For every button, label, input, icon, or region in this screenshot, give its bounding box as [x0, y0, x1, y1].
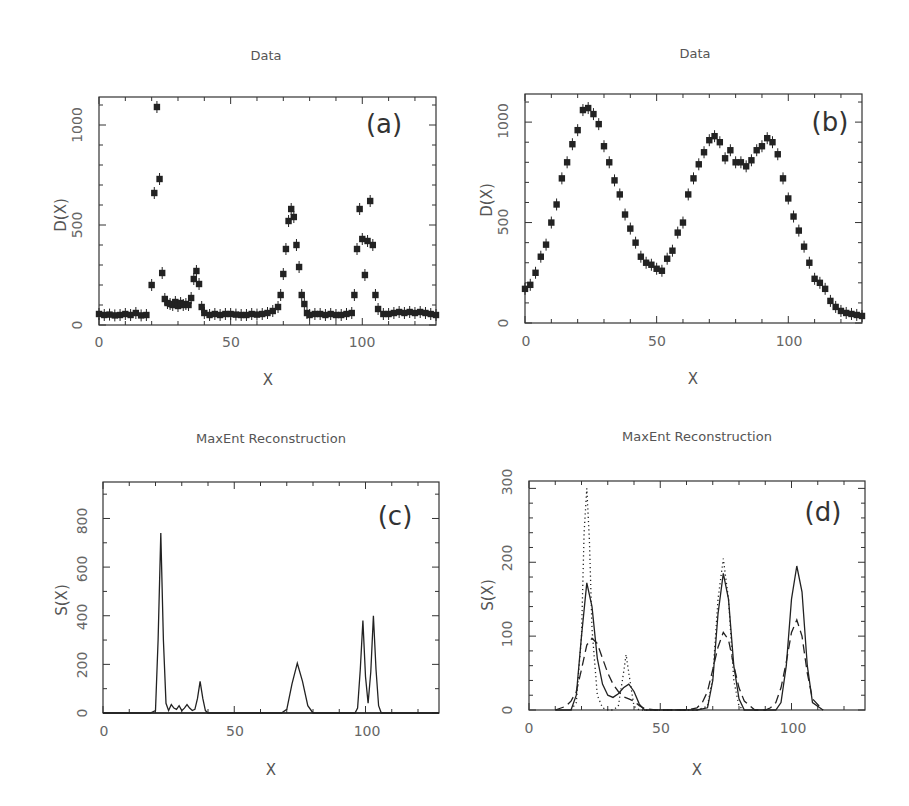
panel-b-xlabel: X: [688, 370, 698, 388]
panel-c-xtick-0: 0: [100, 723, 109, 739]
panel-b-label: (b): [812, 107, 849, 137]
panel-c-curve: [103, 533, 439, 713]
panel-d-xtick-50: 50: [652, 720, 670, 736]
panel-d-ylabel: S(X): [479, 579, 497, 611]
panel-b-ytick-0: 0: [495, 319, 511, 328]
panel-b: Data 0 50 100 0 500 1000 D(X) X (b): [478, 46, 865, 388]
panel-d: MaxEnt Reconstruction 0 50 100 0 100 200…: [479, 429, 865, 779]
panel-a-xtick-50: 50: [222, 334, 240, 350]
panel-c-xlabel: X: [266, 761, 276, 779]
panel-b-xtick-0: 0: [522, 333, 531, 349]
panel-c-ytick-800: 800: [74, 508, 90, 535]
panel-a-ytick-0: 0: [69, 321, 85, 330]
panel-c-ytick-200: 200: [74, 652, 90, 679]
panel-c-title: MaxEnt Reconstruction: [196, 431, 346, 446]
panel-a-xtick-0: 0: [95, 334, 104, 350]
panel-c-ylabel: S(X): [53, 584, 71, 616]
panel-d-ytick-0: 0: [499, 706, 515, 715]
panel-d-ytick-200: 200: [499, 545, 515, 572]
figure: Data 0 50 100 0 500 1000 D(X) X (a) Data…: [0, 0, 909, 806]
panel-b-ylabel: D(X): [478, 183, 496, 217]
panel-b-title: Data: [679, 46, 710, 61]
panel-a-ytick-1000: 1000: [69, 107, 85, 143]
panel-d-ytick-300: 300: [499, 469, 515, 496]
panel-b-ytick-500: 500: [495, 209, 511, 236]
panel-a: Data 0 50 100 0 500 1000 D(X) X (a): [52, 48, 439, 389]
panel-a-title: Data: [250, 48, 281, 63]
panel-d-xtick-100: 100: [780, 720, 807, 736]
panel-d-ytick-100: 100: [499, 621, 515, 648]
panel-b-xtick-100: 100: [776, 333, 803, 349]
panel-d-ytick-labels: 0 100 200 300: [499, 469, 515, 715]
panel-a-ylabel: D(X): [52, 198, 70, 232]
panel-a-xlabel: X: [263, 371, 273, 389]
panel-b-ytick-1000: 1000: [495, 103, 511, 139]
panel-c-ytick-600: 600: [74, 556, 90, 583]
panel-b-xtick-50: 50: [648, 333, 666, 349]
panel-a-xtick-100: 100: [349, 334, 376, 350]
panel-c-xtick-100: 100: [354, 723, 381, 739]
panel-d-label: (d): [805, 497, 842, 527]
panel-a-ytick-500: 500: [69, 212, 85, 239]
panel-c-ytick-0: 0: [74, 709, 90, 718]
panel-c: MaxEnt Reconstruction 0 50 100 0 200 400…: [53, 431, 439, 779]
panel-c-ytick-labels: 0 200 400 600 800: [74, 508, 90, 718]
panel-a-label: (a): [366, 109, 402, 139]
panel-d-xlabel: X: [692, 761, 702, 779]
panel-c-xtick-50: 50: [226, 723, 244, 739]
panel-d-xtick-0: 0: [525, 720, 534, 736]
panel-d-title: MaxEnt Reconstruction: [622, 429, 772, 444]
panel-c-ytick-400: 400: [74, 604, 90, 631]
panel-d-curves: [555, 488, 823, 710]
panel-c-label: (c): [378, 501, 413, 531]
